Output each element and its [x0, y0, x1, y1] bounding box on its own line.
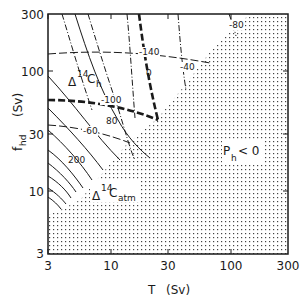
label-delta14c-h: Δ 14 C h [68, 69, 102, 89]
svg-text:Δ: Δ [68, 75, 77, 89]
y-tick-10: 10 [29, 185, 44, 199]
svg-text:P: P [223, 144, 230, 158]
label-ph-negative: P h < 0 [222, 140, 264, 164]
svg-text:< 0: < 0 [238, 144, 260, 158]
x-axis-title: T (Sv) [147, 283, 190, 297]
contour-label-80: 80 [106, 116, 118, 126]
x-tick-30: 30 [160, 259, 175, 273]
contour-chart: 3 10 30 100 300 300 100 30 10 3 T (Sv) f… [0, 0, 306, 301]
x-tick-300: 300 [277, 259, 300, 273]
svg-text:(Sv): (Sv) [166, 283, 190, 297]
label-delta14c-atm: Δ 14 C atm [90, 180, 140, 203]
svg-text:h: h [231, 153, 237, 163]
x-tick-100: 100 [220, 259, 243, 273]
contour-label-200: 200 [68, 155, 85, 165]
contour-label-minus140: -140 [139, 47, 160, 57]
contour-label-minus80: -80 [229, 20, 244, 30]
svg-text:atm: atm [118, 193, 136, 203]
svg-text:hd: hd [18, 135, 28, 146]
svg-text:(Sv): (Sv) [11, 93, 25, 117]
contour-label-minus40: -40 [180, 62, 195, 72]
y-tick-300: 300 [21, 8, 44, 22]
svg-text:h: h [96, 79, 102, 89]
contour-label-minus100: -100 [101, 95, 122, 105]
svg-text:C: C [109, 186, 117, 200]
y-axis-title: f hd (Sv) [11, 93, 28, 151]
svg-text:C: C [87, 72, 95, 86]
contour-label-minus60: -60 [83, 126, 98, 136]
svg-text:Δ: Δ [92, 189, 101, 203]
y-tick-100: 100 [21, 65, 44, 79]
y-tick-30: 30 [29, 128, 44, 142]
x-tick-3: 3 [44, 259, 52, 273]
x-tick-10: 10 [103, 259, 118, 273]
contour-label-0: 0 [146, 68, 152, 78]
y-tick-3: 3 [36, 247, 44, 261]
svg-text:T: T [147, 283, 156, 297]
